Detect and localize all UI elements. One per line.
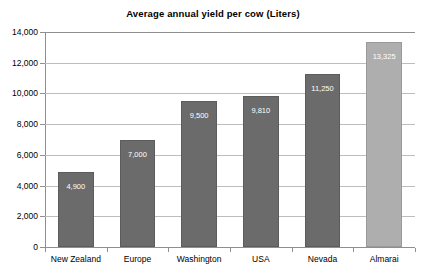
x-axis-category-label: Nevada — [292, 254, 354, 264]
x-axis-tick — [107, 248, 108, 252]
bar-chart: Average annual yield per cow (Liters) 02… — [0, 0, 426, 278]
bar-value-label: 9,500 — [182, 111, 216, 120]
gridline — [45, 32, 415, 33]
y-axis-tick-label: 4,000 — [0, 181, 38, 191]
y-axis-tick-label: 2,000 — [0, 211, 38, 221]
y-axis-tick-label: 8,000 — [0, 119, 38, 129]
x-axis-category-label: New Zealand — [45, 254, 107, 264]
x-axis-tick — [415, 248, 416, 252]
bar-fill: 13,325 — [366, 42, 402, 247]
bar-fill: 9,500 — [181, 101, 217, 247]
bar-fill: 7,000 — [120, 140, 156, 248]
y-axis-tick-label: 14,000 — [0, 27, 38, 37]
bar: 9,500 — [181, 101, 217, 247]
x-axis-tick — [292, 248, 293, 252]
bar-fill: 9,810 — [243, 96, 279, 247]
gridline — [45, 155, 415, 156]
bar-fill: 4,900 — [58, 172, 94, 247]
x-axis-category-label: Almarai — [353, 254, 415, 264]
bar: 11,250 — [305, 74, 341, 247]
y-axis-tick-label: 6,000 — [0, 150, 38, 160]
bar-value-label: 4,900 — [59, 182, 93, 191]
bar-fill: 11,250 — [305, 74, 341, 247]
x-axis-tick — [230, 248, 231, 252]
x-axis-category-label: Washington — [168, 254, 230, 264]
bar: 13,325 — [366, 42, 402, 247]
bar-value-label: 7,000 — [121, 150, 155, 159]
gridline — [45, 186, 415, 187]
bar-value-label: 13,325 — [367, 52, 401, 61]
x-axis-tick — [353, 248, 354, 252]
y-axis-tick-label: 12,000 — [0, 58, 38, 68]
bar-value-label: 11,250 — [306, 84, 340, 93]
plot-area: 4,9007,0009,5009,81011,25013,325 — [45, 32, 415, 247]
y-axis-tick-label: 10,000 — [0, 88, 38, 98]
gridline — [45, 63, 415, 64]
gridline — [45, 124, 415, 125]
gridline — [45, 93, 415, 94]
bar-value-label: 9,810 — [244, 106, 278, 115]
chart-title: Average annual yield per cow (Liters) — [0, 8, 426, 19]
x-axis-category-label: USA — [230, 254, 292, 264]
bar: 4,900 — [58, 172, 94, 247]
gridline — [45, 216, 415, 217]
bar: 7,000 — [120, 140, 156, 248]
y-axis-tick-label: 0 — [0, 242, 38, 252]
x-axis-tick — [45, 248, 46, 252]
x-axis-category-label: Europe — [107, 254, 169, 264]
x-axis-tick — [168, 248, 169, 252]
bar: 9,810 — [243, 96, 279, 247]
